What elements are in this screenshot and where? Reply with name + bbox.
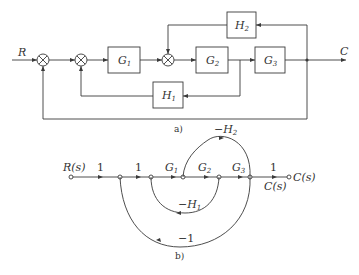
gain-b2: 1	[135, 161, 142, 174]
gain-g1: G1	[165, 161, 178, 175]
caption-a: a)	[174, 124, 183, 134]
gain-b1: 1	[97, 161, 104, 174]
node-r	[69, 175, 73, 179]
block-h1: H1	[153, 82, 183, 108]
gain-g3: G3	[232, 161, 246, 175]
block-diagram-figure: R G1	[0, 0, 359, 275]
caption-b: b)	[175, 251, 184, 261]
block-g2: G2	[196, 47, 228, 73]
summing-junction-1	[37, 54, 49, 66]
gain-outer: −1	[178, 232, 194, 245]
block-g3: G3	[255, 47, 285, 73]
summing-junction-3	[162, 54, 174, 66]
block-g1: G1	[108, 47, 140, 73]
node-c	[287, 175, 291, 179]
label-r-s: R(s)	[62, 161, 86, 174]
block-h2: H2	[227, 12, 256, 38]
signal-flow-graph-b: R(s) 1 1 G1 G2 G3 1 C(s) C(s) −H2 −H1 −1…	[62, 123, 316, 261]
gain-out: 1	[270, 161, 277, 174]
gain-h2: −H2	[214, 123, 238, 137]
label-c-s-branch: C(s)	[264, 180, 287, 193]
input-label-r: R	[17, 46, 26, 59]
gain-h1: −H1	[178, 198, 201, 212]
output-label-c: C	[340, 45, 349, 58]
gain-g2: G2	[198, 161, 212, 175]
block-diagram-a: R G1	[12, 12, 349, 134]
summing-junction-2	[75, 54, 87, 66]
label-c-s-node: C(s)	[293, 171, 316, 184]
